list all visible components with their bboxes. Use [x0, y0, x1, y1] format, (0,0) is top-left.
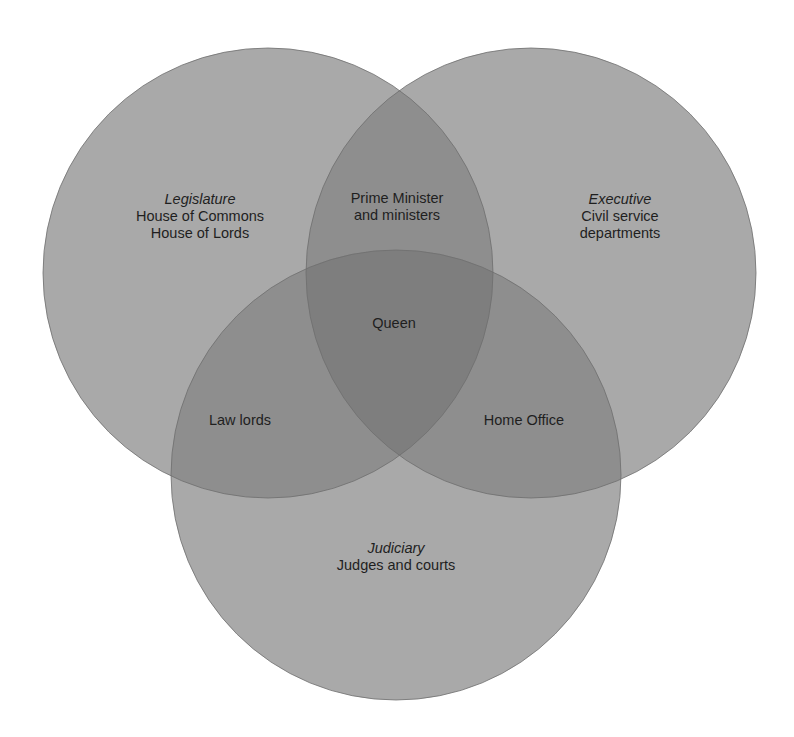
judiciary-title: Judiciary: [337, 540, 456, 557]
law-lords-line: Law lords: [209, 412, 271, 429]
legislature-title: Legislature: [136, 191, 264, 208]
queen-label: Queen: [372, 315, 416, 332]
pm-line-2: and ministers: [351, 207, 444, 224]
legislature-label: Legislature House of Commons House of Lo…: [136, 191, 264, 242]
venn-diagram: [0, 0, 794, 737]
prime-minister-label: Prime Minister and ministers: [351, 190, 444, 224]
home-office-line: Home Office: [484, 412, 564, 429]
home-office-label: Home Office: [484, 412, 564, 429]
queen-line: Queen: [372, 315, 416, 332]
legislature-line-1: House of Commons: [136, 208, 264, 225]
executive-label: Executive Civil service departments: [580, 191, 661, 242]
legislature-line-2: House of Lords: [136, 225, 264, 242]
judiciary-label: Judiciary Judges and courts: [337, 540, 456, 574]
executive-title: Executive: [580, 191, 661, 208]
executive-line-1: Civil service: [580, 208, 661, 225]
executive-line-2: departments: [580, 225, 661, 242]
pm-line-1: Prime Minister: [351, 190, 444, 207]
law-lords-label: Law lords: [209, 412, 271, 429]
judiciary-line-1: Judges and courts: [337, 557, 456, 574]
